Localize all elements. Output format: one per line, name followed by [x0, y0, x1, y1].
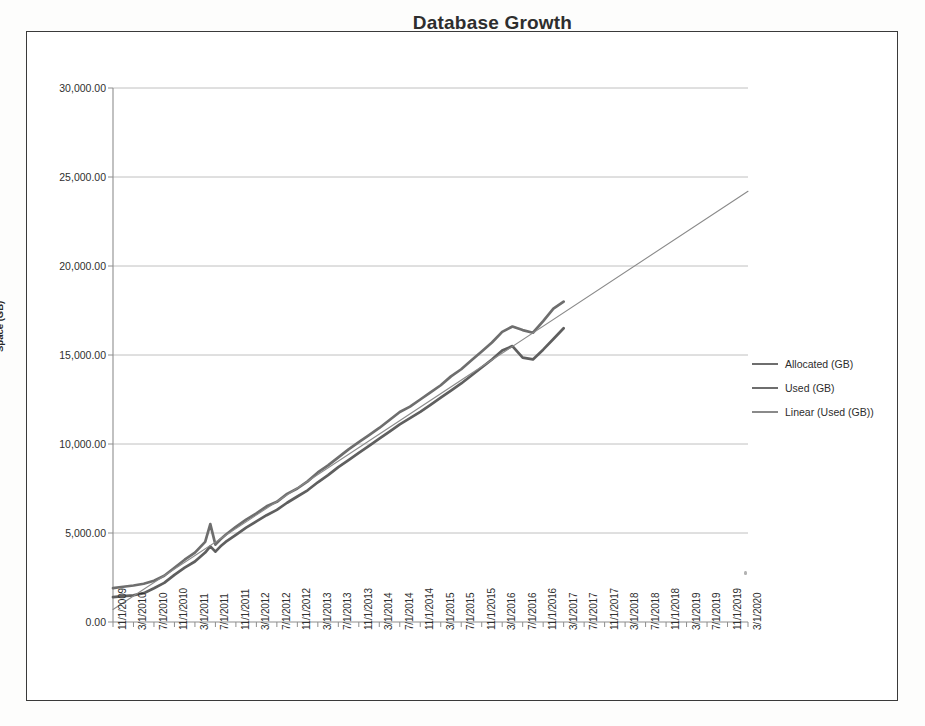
x-axis-tick-label: 7/1/2012: [281, 593, 292, 630]
x-axis-tick-label: 11/1/2018: [670, 588, 681, 630]
x-axis-tick-label: 3/1/2010: [137, 593, 148, 630]
x-axis-tick-label: 11/1/2017: [609, 588, 620, 630]
x-axis-tick-label: 11/1/2011: [240, 589, 251, 630]
x-axis-tick-label: 11/1/2010: [178, 588, 189, 630]
legend-item[interactable]: Allocated (GB): [752, 352, 892, 376]
legend-swatch-icon: [752, 411, 778, 412]
x-axis-tick-label: 3/1/2014: [383, 593, 394, 630]
x-axis-tick-label: 7/1/2018: [650, 593, 661, 630]
legend-item-label: Linear (Used (GB)): [785, 406, 874, 418]
scan-artifact-speck: [744, 571, 747, 575]
x-axis-tick-label: 3/1/2019: [691, 593, 702, 630]
x-axis-tick-label: 3/1/2017: [568, 593, 579, 630]
x-axis-tick-label: 3/1/2015: [445, 593, 456, 630]
chart-page: Database Growth 30,000.0025,000.0020,000…: [0, 0, 925, 726]
x-axis-tick-label: 11/1/2016: [547, 588, 558, 630]
legend-item-label: Used (GB): [785, 382, 835, 394]
x-axis-tick-label: 3/1/2018: [629, 593, 640, 630]
chart-legend: Allocated (GB)Used (GB)Linear (Used (GB)…: [752, 352, 892, 424]
x-axis-tick-label: 3/1/2011: [199, 593, 210, 630]
x-axis-tick-label: 3/1/2012: [260, 593, 271, 630]
x-axis-tick-label: 7/1/2010: [158, 593, 169, 630]
x-axis-tick-label: 7/1/2014: [404, 593, 415, 630]
x-axis-tick-label: 11/1/2009: [117, 588, 128, 630]
x-axis-tick-label: 11/1/2019: [732, 588, 743, 630]
legend-swatch-icon: [752, 363, 778, 366]
x-axis-tick-label: 3/1/2020: [752, 593, 763, 630]
x-axis-tick-label: 7/1/2019: [711, 593, 722, 630]
x-axis-tick-label: 7/1/2016: [527, 593, 538, 630]
x-axis-tick-label: 7/1/2017: [588, 593, 599, 630]
x-axis-tick-label: 7/1/2011: [219, 593, 230, 630]
x-axis-tick-label: 7/1/2015: [465, 593, 476, 630]
legend-item[interactable]: Linear (Used (GB)): [752, 400, 892, 424]
x-axis-tick-label: 3/1/2013: [322, 593, 333, 630]
legend-item[interactable]: Used (GB): [752, 376, 892, 400]
x-axis-tick-label: 11/1/2014: [424, 588, 435, 630]
x-axis-tick-label: 11/1/2013: [363, 588, 374, 630]
x-axis-tick-label: 11/1/2012: [301, 588, 312, 630]
legend-swatch-icon: [752, 387, 778, 390]
x-axis-tick-label: 11/1/2015: [486, 588, 497, 630]
x-axis-tick-label: 3/1/2016: [506, 593, 517, 630]
x-axis-tick-label: 7/1/2013: [342, 593, 353, 630]
legend-item-label: Allocated (GB): [785, 358, 853, 370]
